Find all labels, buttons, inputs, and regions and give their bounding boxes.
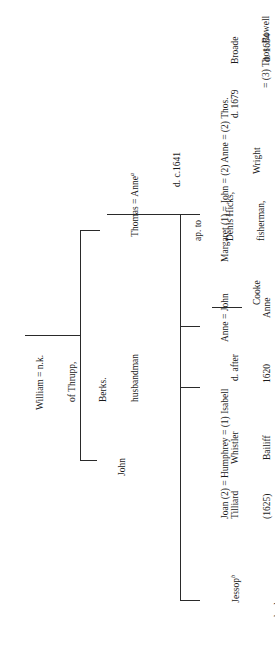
anne-child-name: Anne xyxy=(262,297,273,318)
isabell-detail: d. after 1620 xyxy=(209,354,275,383)
joan-date: (1625) xyxy=(262,491,273,519)
anne-second-detail: d. 1679 xyxy=(209,90,262,119)
john-son-node: John xyxy=(96,458,149,476)
william-place: of Thrupp, xyxy=(67,354,78,410)
jessop-name: Jessop xyxy=(231,578,241,603)
footnote-b: b xyxy=(228,575,235,578)
family-tree-diagram: William = n.k. of Thrupp, Berks. husband… xyxy=(0,0,275,662)
william-occupation: husbandman xyxy=(130,354,141,410)
gen3-sibling-line xyxy=(180,214,181,601)
john-wright-surname: Wright xyxy=(252,97,263,262)
thomas-anne-descent-line xyxy=(107,214,180,215)
margaret-john-anne-node: Margaret (1) = John = (2) Anne = (2) Tho… xyxy=(199,97,275,262)
thomas-stub xyxy=(80,230,100,231)
margaret-john-anne-line: Margaret (1) = John = (2) Anne = (2) Tho… xyxy=(220,97,231,262)
jessop-stub xyxy=(180,600,200,601)
isabell-death: d. after xyxy=(230,354,241,383)
humphrey-office: Bailiff xyxy=(262,413,273,464)
humphrey-detail: Whistler Bailiff 1629 Mayor 1640 xyxy=(209,413,275,464)
john-stub xyxy=(80,460,97,461)
anne-second-death: d. 1679 xyxy=(230,90,241,119)
john-son-name: John xyxy=(117,458,128,476)
humphrey-surname: Whistler xyxy=(230,413,241,464)
jessop-node: Jessopb barber a.f. 1617/18 d. c.1641 xyxy=(199,571,275,617)
anne-child-node: Anne xyxy=(241,297,275,318)
william-descent-line xyxy=(25,335,80,336)
humphrey-stub xyxy=(180,387,200,388)
joan-surname: Tilliard xyxy=(230,491,241,519)
thos-bowell-node: = (3) Thos. Bowell d. c.1672 xyxy=(240,16,275,88)
thomas-name: Thomas = Anne xyxy=(130,176,140,237)
thos-bowell-name: = (3) Thos. Bowell xyxy=(261,16,272,88)
anne-cooke-descent-line xyxy=(212,307,242,308)
gen2-sibling-line xyxy=(80,230,81,461)
isabell-death-year: 1620 xyxy=(262,354,273,383)
william-county: Berks. xyxy=(98,354,109,410)
footnote-a: a xyxy=(127,173,134,176)
william-name: William = n.k. xyxy=(35,354,46,410)
joan-detail: Tilliard (1625) xyxy=(209,491,275,519)
margaret-john-stub xyxy=(180,214,200,215)
william-node: William = n.k. of Thrupp, Berks. husband… xyxy=(14,354,161,410)
anne-cooke-names: Anne = John xyxy=(220,280,231,342)
anne-cooke-stub xyxy=(180,326,200,327)
jessop-trade: barber xyxy=(273,571,276,617)
thos-broade-surname: Broade xyxy=(230,34,241,65)
